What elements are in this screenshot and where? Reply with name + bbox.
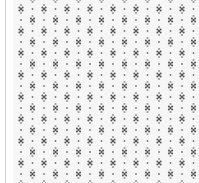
dot xyxy=(135,107,137,109)
diamond-cluster-motif xyxy=(53,103,58,113)
dot xyxy=(181,173,183,175)
diamond-cluster-motif xyxy=(64,114,69,124)
dot xyxy=(193,140,195,142)
diamond-cluster-motif xyxy=(87,92,92,102)
diamond-cluster-motif xyxy=(76,147,81,157)
diamond-cluster-motif xyxy=(41,158,46,168)
dot xyxy=(112,151,114,153)
dot xyxy=(147,30,149,32)
dot xyxy=(89,129,91,131)
dot xyxy=(170,96,172,98)
diamond-cluster-motif xyxy=(99,103,104,113)
diamond-cluster-motif xyxy=(179,92,184,102)
diamond-cluster-motif xyxy=(18,48,23,58)
diamond-cluster-motif xyxy=(87,26,92,36)
dot xyxy=(101,96,103,98)
diamond-cluster-motif xyxy=(156,4,161,14)
diamond-cluster-motif xyxy=(30,125,35,135)
diamond-cluster-motif xyxy=(191,15,196,25)
diamond-cluster-motif xyxy=(99,125,104,135)
diamond-cluster-motif xyxy=(64,48,69,58)
dot xyxy=(124,162,126,164)
diamond-cluster-motif xyxy=(99,59,104,69)
dot xyxy=(135,151,137,153)
diamond-cluster-motif xyxy=(64,92,69,102)
diamond-cluster-motif xyxy=(133,114,138,124)
dot xyxy=(78,96,80,98)
dot xyxy=(193,52,195,54)
diamond-cluster-motif xyxy=(110,92,115,102)
diamond-cluster-motif xyxy=(53,147,58,157)
dot xyxy=(124,52,126,54)
diamond-cluster-motif xyxy=(41,114,46,124)
diamond-cluster-motif xyxy=(133,136,138,146)
diamond-cluster-motif xyxy=(168,15,173,25)
diamond-cluster-motif xyxy=(191,103,196,113)
diamond-cluster-motif xyxy=(41,26,46,36)
diamond-cluster-motif xyxy=(76,169,81,179)
diamond-cluster-motif xyxy=(110,70,115,80)
dot xyxy=(181,63,183,65)
dot xyxy=(66,85,68,87)
diamond-cluster-motif xyxy=(145,59,150,69)
diamond-cluster-motif xyxy=(133,48,138,58)
diamond-cluster-motif xyxy=(87,70,92,80)
diamond-cluster-motif xyxy=(18,4,23,14)
diamond-cluster-motif xyxy=(156,158,161,168)
diamond-cluster-motif xyxy=(179,114,184,124)
diamond-cluster-motif xyxy=(110,26,115,36)
dot xyxy=(43,19,45,21)
diamond-cluster-motif xyxy=(99,0,104,3)
diamond-cluster-motif xyxy=(87,136,92,146)
dot xyxy=(147,162,149,164)
diamond-cluster-motif xyxy=(87,114,92,124)
diamond-cluster-motif xyxy=(179,48,184,58)
dot xyxy=(89,85,91,87)
diamond-cluster-motif xyxy=(122,59,127,69)
diamond-cluster-motif xyxy=(41,48,46,58)
dot xyxy=(66,129,68,131)
diamond-cluster-motif xyxy=(133,4,138,14)
diamond-cluster-motif xyxy=(41,70,46,80)
dot xyxy=(193,74,195,76)
dot xyxy=(193,30,195,32)
dot xyxy=(181,85,183,87)
dot xyxy=(78,140,80,142)
dot xyxy=(20,63,22,65)
dot xyxy=(147,96,149,98)
diamond-cluster-motif xyxy=(30,147,35,157)
diamond-cluster-motif xyxy=(122,125,127,135)
diamond-cluster-motif xyxy=(18,26,23,36)
dot xyxy=(55,52,57,54)
dot xyxy=(170,52,172,54)
dot xyxy=(78,118,80,120)
diamond-cluster-motif xyxy=(87,158,92,168)
diamond-cluster-motif xyxy=(133,180,138,183)
diamond-cluster-motif xyxy=(30,59,35,69)
dot xyxy=(147,118,149,120)
diamond-cluster-motif xyxy=(156,48,161,58)
diamond-cluster-motif xyxy=(99,15,104,25)
diamond-cluster-motif xyxy=(156,136,161,146)
diamond-cluster-motif xyxy=(30,81,35,91)
dot xyxy=(170,118,172,120)
dot xyxy=(89,41,91,43)
diamond-cluster-motif xyxy=(53,15,58,25)
dot xyxy=(32,118,34,120)
diamond-cluster-motif xyxy=(18,92,23,102)
dot xyxy=(147,74,149,76)
dot xyxy=(124,140,126,142)
diamond-cluster-motif xyxy=(41,180,46,183)
diamond-cluster-motif xyxy=(168,125,173,135)
diamond-cluster-motif xyxy=(30,15,35,25)
diamond-cluster-motif xyxy=(122,37,127,47)
diamond-cluster-motif xyxy=(30,169,35,179)
dot xyxy=(32,162,34,164)
dot xyxy=(66,151,68,153)
dot xyxy=(20,41,22,43)
dot xyxy=(147,52,149,54)
dot xyxy=(43,151,45,153)
diamond-cluster-motif xyxy=(168,0,173,3)
diamond-cluster-motif xyxy=(145,169,150,179)
diamond-cluster-motif xyxy=(168,169,173,179)
